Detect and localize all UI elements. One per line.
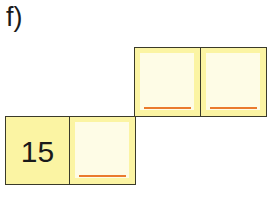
exercise-label: f) — [6, 4, 23, 31]
given-value: 15 — [6, 117, 69, 184]
given-cell-bottom-left: 15 — [5, 116, 70, 185]
answer-cell-bottom-right[interactable] — [69, 116, 136, 185]
answer-cell-top-right[interactable] — [200, 47, 267, 117]
answer-value — [70, 117, 135, 184]
answer-value — [135, 48, 200, 116]
answer-cell-top-left[interactable] — [134, 47, 201, 117]
answer-value — [201, 48, 266, 116]
